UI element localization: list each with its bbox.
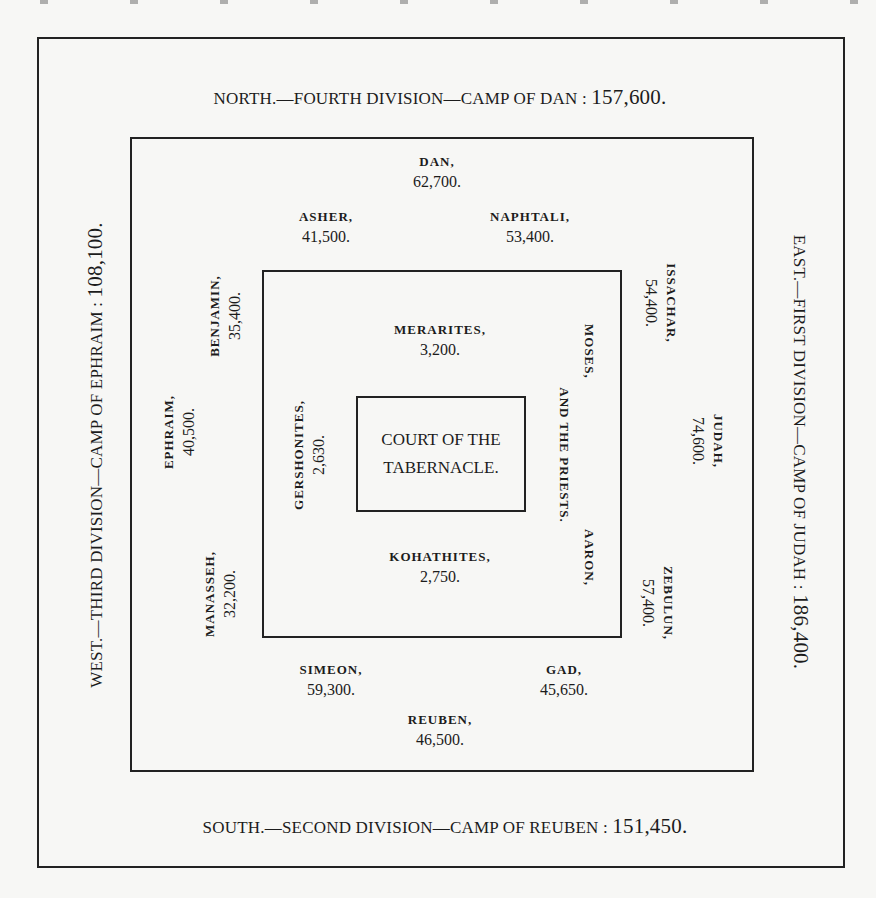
- tribe-judah: JUDAH, 74,600.: [688, 414, 728, 468]
- west-total: 108,100.: [83, 222, 107, 297]
- levite-count: 3,200.: [394, 340, 486, 360]
- levite-merarites: MERARITES, 3,200.: [394, 320, 486, 360]
- levite-count: 2,630.: [309, 400, 329, 510]
- levite-name: KOHATHITES,: [389, 547, 490, 567]
- tribe-count: 40,500.: [179, 395, 199, 469]
- tribe-reuben: REUBEN, 46,500.: [408, 710, 472, 750]
- levite-name: GERSHONITES,: [289, 400, 309, 510]
- tribe-count: 54,400.: [641, 263, 661, 342]
- levite-count: 2,750.: [389, 567, 490, 587]
- tribe-issachar: ISSACHAR, 54,400.: [641, 263, 681, 342]
- tribe-name: NAPHTALI,: [490, 207, 570, 227]
- levite-name: MERARITES,: [394, 320, 486, 340]
- aaron-label: AARON,: [577, 529, 602, 586]
- moses-aaron-priests: MOSES, AARON, AND THE PRIESTS.: [552, 324, 602, 586]
- tribe-name: DAN,: [413, 152, 461, 172]
- south-heading: SOUTH.—SECOND DIVISION—CAMP OF REUBEN : …: [203, 814, 688, 839]
- clipped-previous-text-line: [0, 0, 876, 4]
- tribe-naphtali: NAPHTALI, 53,400.: [490, 207, 570, 247]
- levite-kohathites: KOHATHITES, 2,750.: [389, 547, 490, 587]
- moses-label: MOSES,: [577, 324, 602, 379]
- tribe-count: 45,650.: [540, 680, 588, 700]
- tribe-count: 74,600.: [688, 414, 708, 468]
- priests-top-line: MOSES, AARON,: [577, 324, 602, 586]
- tribe-count: 53,400.: [490, 227, 570, 247]
- tribe-count: 35,400.: [225, 275, 245, 357]
- court-of-tabernacle-box: COURT OF THE TABERNACLE.: [356, 396, 526, 512]
- tribe-name: REUBEN,: [408, 710, 472, 730]
- west-heading-text: WEST.—THIRD DIVISION—CAMP OF EPHRAIM :: [87, 297, 106, 687]
- north-total: 157,600.: [591, 85, 666, 109]
- court-label: COURT OF THE TABERNACLE.: [358, 398, 524, 510]
- priests-bottom-line: AND THE PRIESTS.: [552, 324, 577, 586]
- levite-gershonites: GERSHONITES, 2,630.: [289, 400, 329, 510]
- tribe-name: BENJAMIN,: [205, 275, 225, 357]
- tribe-name: ISSACHAR,: [661, 263, 681, 342]
- east-heading: EAST.—FIRST DIVISION—CAMP OF JUDAH : 186…: [788, 235, 813, 670]
- tribe-count: 32,200.: [220, 551, 240, 637]
- tribe-manasseh: MANASSEH, 32,200.: [200, 551, 240, 637]
- tribe-zebulun: ZEBULUN, 57,400.: [638, 566, 678, 640]
- tribe-count: 59,300.: [300, 680, 363, 700]
- tribe-name: ZEBULUN,: [658, 566, 678, 640]
- south-total: 151,450.: [612, 814, 687, 838]
- court-line-1: COURT OF THE: [381, 426, 500, 454]
- tribe-gad: GAD, 45,650.: [540, 660, 588, 700]
- tribe-count: 46,500.: [408, 730, 472, 750]
- tribe-count: 62,700.: [413, 172, 461, 192]
- south-heading-text: SOUTH.—SECOND DIVISION—CAMP OF REUBEN :: [203, 818, 613, 837]
- tribe-name: EPHRAIM,: [159, 395, 179, 469]
- court-line-2: TABERNACLE.: [383, 454, 498, 482]
- tribe-name: GAD,: [540, 660, 588, 680]
- tribe-name: MANASSEH,: [200, 551, 220, 637]
- east-total: 186,400.: [789, 594, 813, 669]
- tribe-ephraim: EPHRAIM, 40,500.: [159, 395, 199, 469]
- tribe-count: 57,400.: [638, 566, 658, 640]
- west-heading: WEST.—THIRD DIVISION—CAMP OF EPHRAIM : 1…: [83, 222, 108, 687]
- north-heading: NORTH.—FOURTH DIVISION—CAMP OF DAN : 157…: [214, 85, 667, 110]
- tribe-name: JUDAH,: [708, 414, 728, 468]
- tribe-dan: DAN, 62,700.: [413, 152, 461, 192]
- tribe-simeon: SIMEON, 59,300.: [300, 660, 363, 700]
- and-the-priests-label: AND THE PRIESTS.: [552, 324, 577, 586]
- tribe-name: ASHER,: [299, 207, 353, 227]
- east-heading-text: EAST.—FIRST DIVISION—CAMP OF JUDAH :: [790, 235, 809, 594]
- tribe-benjamin: BENJAMIN, 35,400.: [205, 275, 245, 357]
- tribe-count: 41,500.: [299, 227, 353, 247]
- north-heading-text: NORTH.—FOURTH DIVISION—CAMP OF DAN :: [214, 89, 592, 108]
- tribe-asher: ASHER, 41,500.: [299, 207, 353, 247]
- tribe-name: SIMEON,: [300, 660, 363, 680]
